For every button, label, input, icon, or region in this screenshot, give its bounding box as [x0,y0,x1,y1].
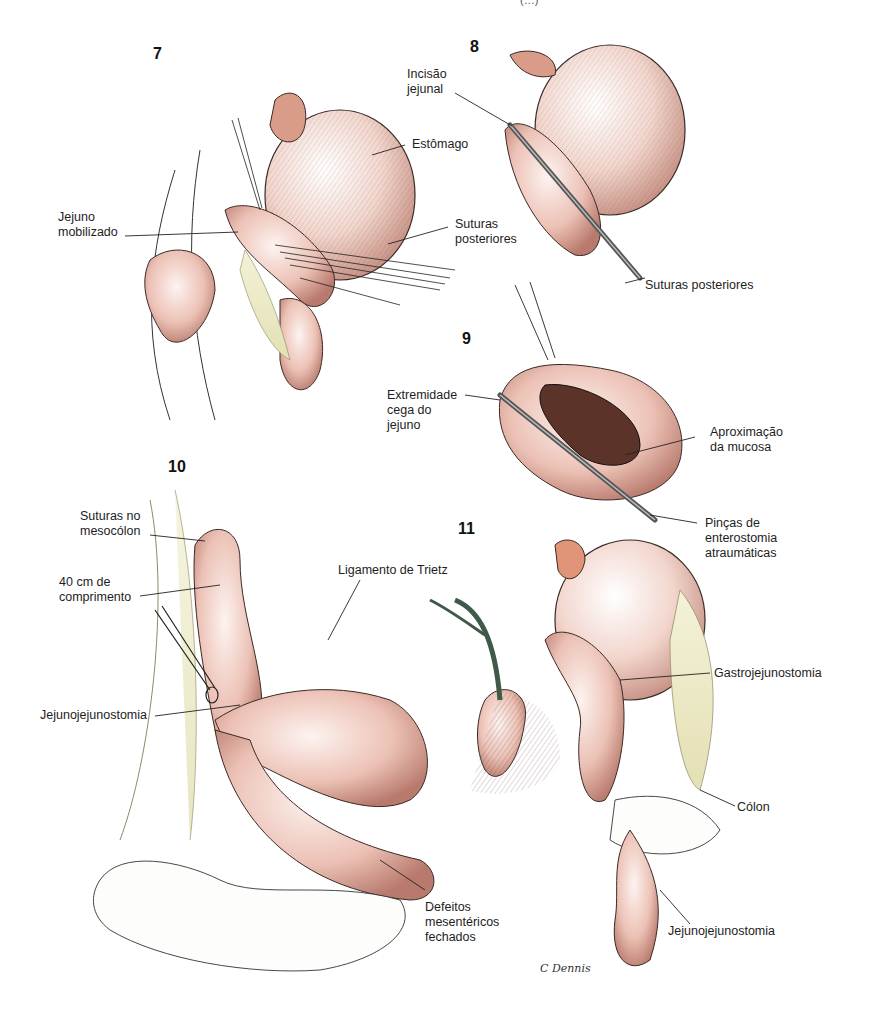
label-suturas-mesocolon: Suturas no mesocólon [80,509,140,539]
label-40cm-comprimento: 40 cm de comprimento [59,575,131,605]
artist-signature: C Dennis [540,962,591,975]
figure-number-7: 7 [153,45,162,63]
figure-9-drawing [465,282,697,523]
figure-number-9: 9 [462,330,471,348]
label-incisao-jejunal: Incisão jejunal [407,67,447,97]
label-jejunojejunostomia-11: Jejunojejunostomia [668,924,775,939]
label-defeitos-mesentericos: Defeitos mesentéricos fechados [425,900,499,945]
label-jejuno-mobilizado: Jejuno mobilizado [58,210,118,240]
label-extremidade-cega: Extremidade cega do jejuno [387,388,457,433]
label-suturas-posteriores-7: Suturas posteriores [455,217,517,247]
figure-number-8: 8 [470,38,479,56]
label-jejunojejunostomia-10: Jejunojejunostomia [40,708,147,723]
label-suturas-posteriores-8: Suturas posteriores [645,278,753,293]
surgical-illustration-plate: (…) [0,0,872,1036]
figure-number-11: 11 [458,520,475,538]
figure-7-drawing [125,93,455,420]
label-pincas-enterostomia: Pinças de enterostomia atraumáticas [705,516,777,561]
label-ligamento-trietz: Ligamento de Trietz [338,563,448,578]
figure-number-10: 10 [168,458,186,476]
figure-8-drawing [455,45,685,283]
label-aproximacao-mucosa: Aproximação da mucosa [710,425,783,455]
label-estomago: Estômago [412,137,468,152]
label-colon: Cólon [737,800,770,815]
label-gastrojejunostomia: Gastrojejunostomia [714,666,822,681]
